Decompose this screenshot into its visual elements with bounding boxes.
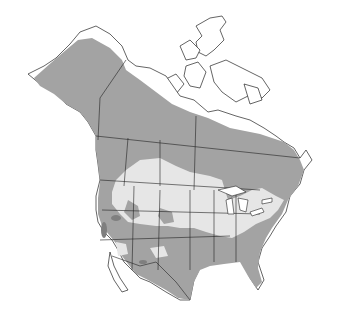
range-map bbox=[0, 0, 359, 324]
